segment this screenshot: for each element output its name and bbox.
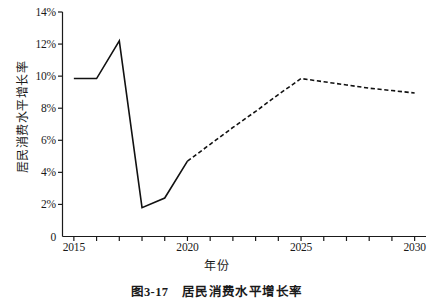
x-axis-tick-label: 2030: [385, 241, 433, 254]
figure-caption: 图3-17 居民消费水平增长率: [0, 285, 433, 300]
y-axis-title: 居民消费水平增长率: [16, 42, 30, 192]
x-axis-tick-label: 2020: [157, 241, 217, 254]
x-axis-tick-label: 2015: [44, 241, 104, 254]
x-axis-tick-label: 2025: [271, 241, 331, 254]
x-axis-title: 年份: [0, 259, 433, 273]
